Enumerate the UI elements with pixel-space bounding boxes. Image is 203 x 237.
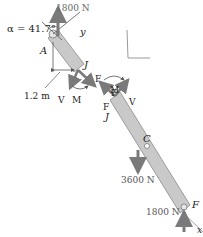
force-label-center: 3600 N xyxy=(121,176,155,185)
dimension-label: 1.2 m xyxy=(24,92,50,101)
force-F-upper xyxy=(78,70,95,86)
force-label-top: 1800 N xyxy=(56,4,90,13)
pin-F xyxy=(181,204,187,210)
l-mark xyxy=(127,30,150,58)
member-segment-JF xyxy=(110,92,190,213)
force-label-bottom: 1800 N xyxy=(146,208,180,217)
moment-M-lower-label: M xyxy=(110,86,119,95)
point-C-label: C xyxy=(143,134,151,144)
force-V-lower-label: V xyxy=(129,98,136,107)
pin-C xyxy=(145,144,150,149)
moment-M-upper xyxy=(72,86,88,89)
force-V-upper-label: V xyxy=(58,96,65,105)
fbd-drawing xyxy=(0,0,203,237)
force-F-upper-label: F xyxy=(95,75,101,84)
point-J-lower-label: J xyxy=(105,112,109,122)
point-A-label: A xyxy=(40,46,47,56)
axis-x-label: x xyxy=(197,226,202,235)
moment-M-upper-label: M xyxy=(72,96,81,105)
member-segment-AJ xyxy=(48,30,84,72)
diagram-canvas: α = 41.7° 1800 N y A J F 1.2 m V M F F M… xyxy=(0,0,203,237)
point-J-upper-label: J xyxy=(84,60,88,70)
axis-y-label: y xyxy=(80,27,86,37)
point-F-label: F xyxy=(192,200,199,210)
alpha-label: α = 41.7° xyxy=(7,24,56,34)
dimension-leader xyxy=(45,72,60,88)
moment-M-lower xyxy=(104,76,124,80)
force-V-upper xyxy=(70,70,78,88)
